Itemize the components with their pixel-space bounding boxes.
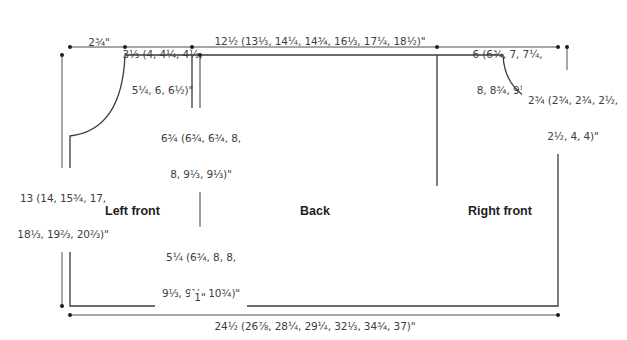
piece-label-right-front: Right front [468,204,532,218]
armhole-depth-label: 2¾ (2¾, 2¾, 2½, 2½, 4, 4)" [522,70,624,154]
armhole-depth-line2: 2½, 4, 4)" [522,130,624,142]
total-length-label: 13 (14, 15¾, 17, 18⅓, 19⅔, 20⅔)" [14,168,112,252]
armhole-depth-line1: 2¾ (2¾, 2¾, 2½, [522,94,624,106]
total-length-line1: 13 (14, 15¾, 17, [14,192,112,204]
piece-label-left-front: Left front [105,204,160,218]
piece-label-back: Back [300,204,330,218]
hem-label: 1" [190,291,210,303]
total-width-label: 24½ (26⅞, 28¼, 29¼, 32⅓, 34¾, 37)" [180,320,450,332]
sleeve-slit-line1: 6¾ (6¾, 6¾, 8, [155,132,247,144]
right-neck-width-line1: 6 (6¾, 7, 7¼, [460,48,555,60]
sleeve-slit-label: 6¾ (6¾, 6¾, 8, 8, 9⅓, 9⅓)" [155,108,247,192]
sleeve-slit-line2: 8, 9⅓, 9⅓)" [155,168,247,180]
total-length-line2: 18⅓, 19⅔, 20⅔)" [14,228,112,240]
left-neck-width-label: 3⅓ (4, 4¼, 4½, 5¼, 6, 6½)" [110,24,215,108]
back-neck-width-label: 12½ (13⅓, 14¼, 14¾, 16⅓, 17¼, 18½)" [205,35,435,47]
left-neck-width-line1: 3⅓ (4, 4¼, 4½, [110,48,215,60]
left-neck-width-line2: 5¼, 6, 6½)" [110,84,215,96]
lower-length-line1: 5¼ (6¾, 8, 8, [155,251,247,263]
